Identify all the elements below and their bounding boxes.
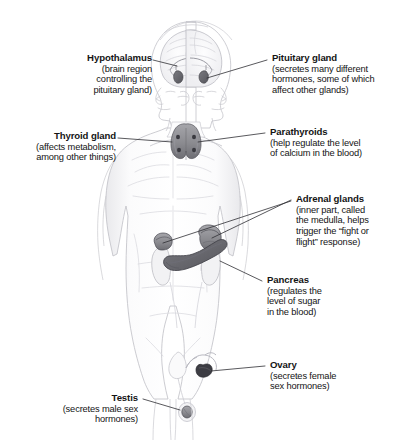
ovary-organ (196, 364, 212, 377)
callout-ovary-desc: (secretes female sex hormones) (270, 371, 382, 393)
thyroid-organ (171, 124, 201, 159)
callout-pituitary-gland-desc: (secretes many different hormones, some … (272, 64, 405, 96)
callout-hypothalamus-title: Hypothalamus (6, 52, 152, 63)
callout-pituitary-gland: Pituitary gland (secretes many different… (272, 52, 405, 96)
callout-parathyroids: Parathyroids (help regulate the level of… (270, 126, 405, 159)
callout-parathyroids-desc: (help regulate the level of calcium in t… (270, 138, 405, 160)
callout-hypothalamus: Hypothalamus (brain region controlling t… (6, 52, 152, 96)
pelvis-sketch (169, 352, 186, 379)
callout-thyroid-gland-desc: (affects metabolism, among other things) (4, 142, 116, 164)
callout-pituitary-gland-title: Pituitary gland (272, 52, 405, 63)
callout-pancreas-desc: (regulates the level of sugar in the blo… (267, 286, 379, 318)
callout-thyroid-gland: Thyroid gland (affects metabolism, among… (4, 130, 116, 163)
callout-pancreas-title: Pancreas (267, 274, 379, 285)
pituitary-right-organ (199, 71, 208, 83)
callout-adrenal-glands-desc: (inner part, called the medulla, helps t… (296, 205, 405, 248)
callout-adrenal-glands: Adrenal glands (inner part, called the m… (296, 193, 405, 248)
callout-ovary-title: Ovary (270, 359, 382, 370)
callout-ovary: Ovary (secretes female sex hormones) (270, 359, 382, 392)
callout-pancreas: Pancreas (regulates the level of sugar i… (267, 274, 379, 318)
endocrine-system-figure: Hypothalamus (brain region controlling t… (0, 0, 405, 442)
callout-adrenal-glands-title: Adrenal glands (296, 193, 405, 204)
head-profile-right (186, 22, 231, 131)
callout-hypothalamus-desc: (brain region controlling the pituitary … (6, 64, 152, 96)
callout-thyroid-gland-title: Thyroid gland (4, 130, 116, 141)
callout-testis-title: Testis (24, 392, 138, 403)
callout-testis: Testis (secretes male sex hormones) (24, 392, 138, 425)
callout-parathyroids-title: Parathyroids (270, 126, 405, 137)
callout-testis-desc: (secretes male sex hormones) (24, 404, 138, 426)
pituitary-left-organ (174, 71, 183, 83)
